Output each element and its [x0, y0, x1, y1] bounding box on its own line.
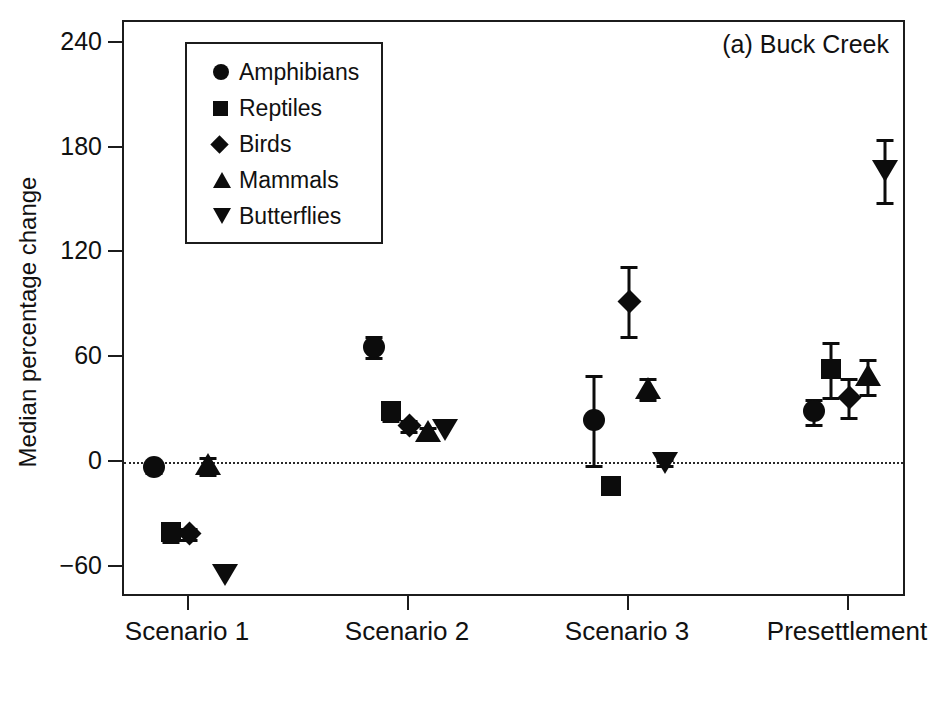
filled-diamond-icon	[213, 138, 239, 151]
filled-square-icon	[213, 101, 239, 116]
data-point-triangle-down-icon	[432, 419, 458, 441]
data-point-diamond-icon	[837, 385, 861, 409]
x-axis-tick-label: Presettlement	[767, 616, 927, 647]
legend: Amphibians Reptiles Birds Mammals Butter…	[185, 42, 383, 244]
data-point-diamond-icon	[617, 289, 641, 313]
x-axis-tick	[187, 596, 189, 610]
x-axis-tick	[627, 596, 629, 610]
y-axis-tick-label: −60	[60, 550, 102, 579]
y-axis-tick-label: 240	[60, 26, 102, 55]
data-point-triangle-down-icon	[652, 452, 678, 474]
data-point-circle-icon	[803, 400, 825, 422]
error-bar-cap	[586, 375, 603, 378]
error-bar-cap	[860, 359, 877, 362]
legend-item-label: Amphibians	[239, 59, 359, 86]
data-point-square-icon	[601, 476, 621, 496]
x-axis-tick-label: Scenario 3	[565, 616, 689, 647]
data-point-circle-icon	[583, 409, 605, 431]
y-axis-tick	[108, 250, 122, 252]
figure-panel-buck-creek: 240180120600−60 Median percentage change…	[0, 0, 939, 724]
filled-circle-icon	[213, 64, 239, 80]
y-axis-tick	[108, 146, 122, 148]
legend-item[interactable]: Mammals	[187, 162, 381, 198]
data-point-triangle-down-icon	[872, 160, 898, 182]
legend-item[interactable]: Butterflies	[187, 198, 381, 234]
legend-item[interactable]: Birds	[187, 126, 381, 162]
x-axis-tick	[847, 596, 849, 610]
x-axis-tick-label: Scenario 1	[125, 616, 249, 647]
legend-item-label: Mammals	[239, 167, 339, 194]
data-point-square-icon	[821, 359, 841, 379]
filled-triangle-up-icon	[213, 172, 239, 188]
legend-item-label: Butterflies	[239, 203, 341, 230]
data-point-square-icon	[381, 401, 401, 421]
error-bar-cap	[823, 342, 840, 345]
data-point-triangle-up-icon	[635, 377, 661, 399]
data-point-triangle-up-icon	[855, 364, 881, 386]
error-bar-cap	[860, 394, 877, 397]
y-axis-tick-label: 120	[60, 236, 102, 265]
y-axis-title: Median percentage change	[14, 62, 42, 582]
y-axis-tick-label: 0	[88, 446, 102, 475]
zero-reference-line	[124, 462, 903, 464]
legend-item-label: Birds	[239, 131, 291, 158]
y-axis-tick	[108, 41, 122, 43]
data-point-triangle-up-icon	[195, 453, 221, 475]
error-bar-cap	[806, 424, 823, 427]
legend-item[interactable]: Reptiles	[187, 90, 381, 126]
y-axis-tick	[108, 565, 122, 567]
error-bar-cap	[877, 202, 894, 205]
error-bar-cap	[877, 139, 894, 142]
error-bar-cap	[841, 417, 858, 420]
filled-triangle-down-icon	[213, 208, 239, 224]
plot-area: (a) Buck Creek Amphibians Reptiles Birds…	[122, 20, 905, 596]
error-bar-cap	[640, 399, 657, 402]
error-bar-cap	[621, 336, 638, 339]
y-axis-tick	[108, 355, 122, 357]
data-point-triangle-down-icon	[212, 564, 238, 586]
error-bar-cap	[586, 465, 603, 468]
y-axis-tick	[108, 460, 122, 462]
x-axis-tick	[407, 596, 409, 610]
y-axis-tick-label: 180	[60, 131, 102, 160]
data-point-circle-icon	[363, 336, 385, 358]
error-bar-cap	[621, 266, 638, 269]
panel-label: (a) Buck Creek	[722, 30, 889, 59]
legend-item-label: Reptiles	[239, 95, 322, 122]
y-axis-tick-label: 60	[74, 341, 102, 370]
legend-item[interactable]: Amphibians	[187, 54, 381, 90]
x-axis-tick-label: Scenario 2	[345, 616, 469, 647]
